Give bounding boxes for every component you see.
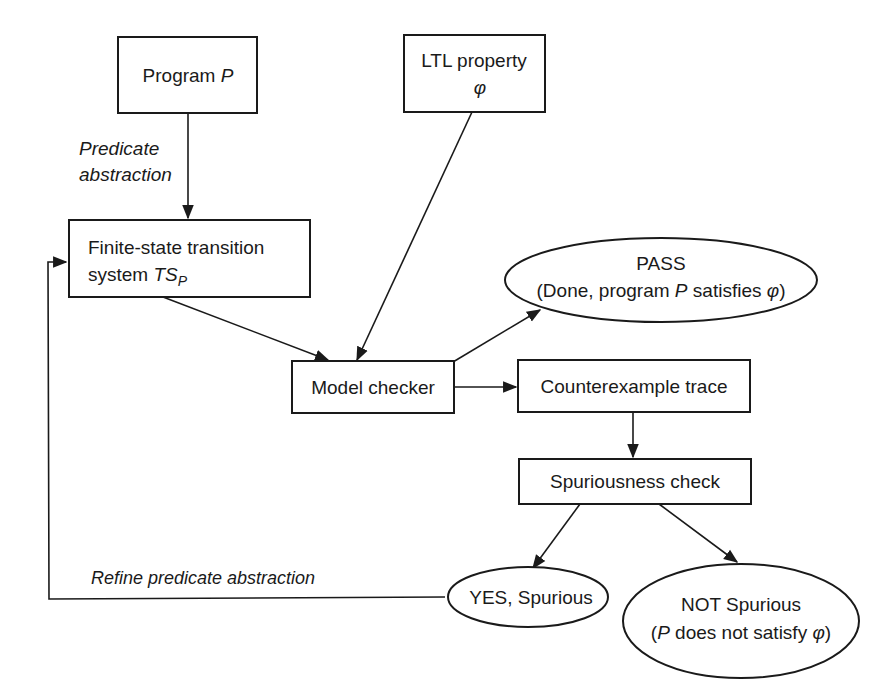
node-program: Program P (118, 37, 257, 113)
node-pass-line1: PASS (636, 253, 685, 274)
edge-ltl-to-model-checker (357, 112, 472, 360)
edge-spurious-check-to-yes (533, 504, 580, 568)
node-yes-spurious-label: YES, Spurious (469, 587, 593, 608)
node-ltl-line1: LTL property (421, 50, 527, 71)
node-fsts-line1: Finite-state transition (88, 237, 264, 258)
diagram-canvas: Predicate abstraction Refine predicate a… (0, 0, 890, 694)
edge-fsts-to-model-checker (163, 297, 328, 360)
node-not-spurious-line1: NOT Spurious (681, 594, 801, 615)
node-not-spurious: NOT Spurious (P does not satisfy φ) (623, 564, 859, 678)
edge-label-predicate-line1: Predicate (79, 138, 159, 159)
edge-label-refine: Refine predicate abstraction (91, 568, 315, 588)
node-pass: PASS (Done, program P satisfies φ) (505, 238, 817, 322)
edge-model-checker-to-pass (453, 310, 540, 362)
node-counterexample-label: Counterexample trace (541, 376, 728, 397)
node-yes-spurious: YES, Spurious (448, 567, 608, 627)
edge-spurious-check-to-not (659, 504, 737, 562)
node-pass-line2: (Done, program P satisfies φ) (537, 280, 786, 301)
node-program-label: Program P (143, 65, 234, 86)
node-model-checker-label: Model checker (311, 377, 435, 398)
edges (48, 112, 737, 599)
edge-refine-loop (48, 262, 445, 599)
node-model-checker: Model checker (292, 361, 454, 413)
node-counterexample-trace: Counterexample trace (518, 360, 750, 412)
node-spuriousness-check: Spuriousness check (519, 459, 751, 504)
node-finite-state-transition-system: Finite-state transition system TSP (69, 220, 310, 297)
node-spurious-check-label: Spuriousness check (550, 471, 721, 492)
edge-label-predicate-line2: abstraction (79, 164, 172, 185)
node-ltl-property: LTL property φ (404, 35, 545, 112)
node-not-spurious-line2: (P does not satisfy φ) (651, 622, 831, 643)
node-ltl-line2: φ (474, 77, 486, 98)
